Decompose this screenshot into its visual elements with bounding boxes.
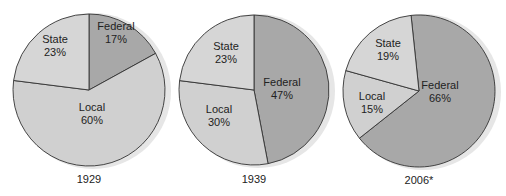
slice-label-local: Local30%: [206, 103, 232, 128]
year-label: 2006*: [405, 174, 434, 186]
pie-2006: Federal66%State19%Local15%2006*: [343, 14, 501, 186]
year-label: 1939: [242, 173, 266, 185]
slice-label-state: State19%: [375, 37, 401, 62]
slice-label-local: Local15%: [359, 90, 385, 115]
slice-label-state: State23%: [213, 40, 239, 65]
pie-1939: Federal47%State23%Local30%1939: [179, 14, 335, 185]
pie-charts: Federal17%State23%Local60%1929Federal47%…: [0, 0, 506, 196]
slice-label-state: State23%: [42, 33, 68, 58]
pie-1929: Federal17%State23%Local60%1929: [13, 13, 171, 185]
year-label: 1929: [77, 173, 101, 185]
slice-label-local: Local60%: [79, 101, 105, 126]
